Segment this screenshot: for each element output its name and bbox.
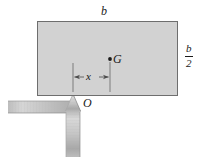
support-vertical-column [66,110,80,157]
centroid-label-g: G [113,53,122,65]
plate-rectangle [38,22,178,96]
width-label-b: b [101,5,107,17]
pivot-label-o: O [83,97,92,109]
fraction-denominator: 2 [185,58,193,70]
distance-label-x: x [86,71,91,82]
fraction-numerator: b [185,43,193,55]
figure-canvas [0,0,200,157]
height-label-b-over-2: b 2 [185,43,193,69]
mechanics-figure: b b 2 G x O [0,0,200,157]
centroid-marker [108,57,112,61]
